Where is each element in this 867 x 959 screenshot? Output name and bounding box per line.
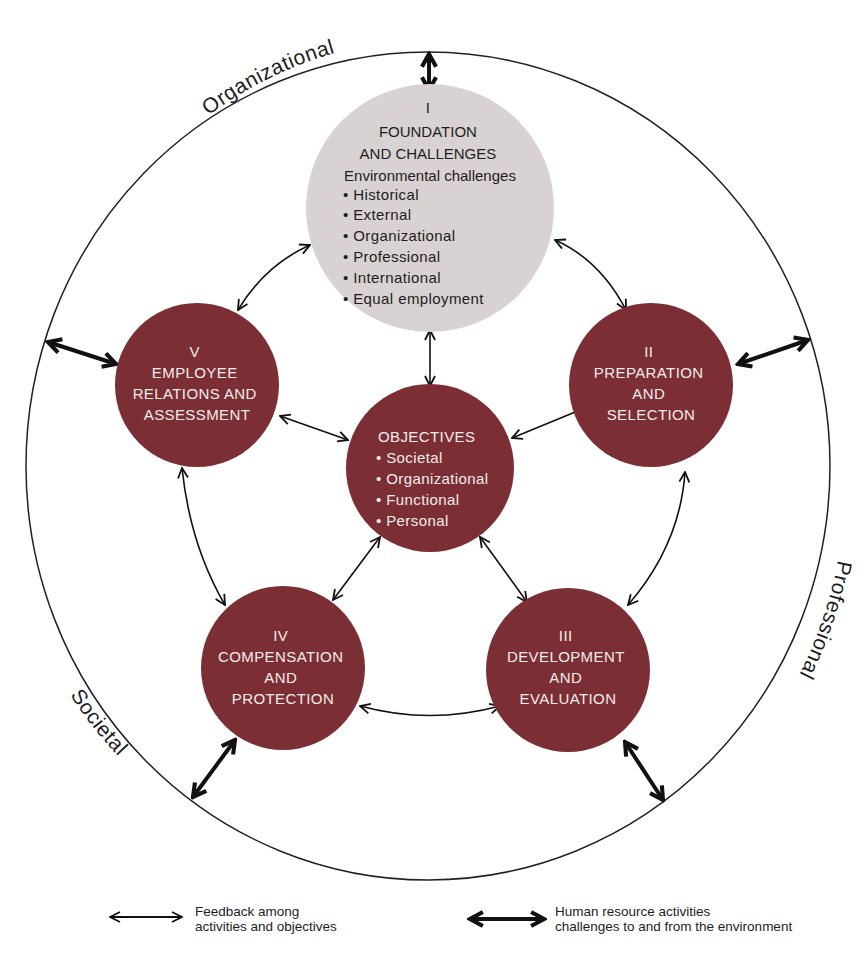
legend-feedback-line1: Feedback among bbox=[195, 904, 337, 919]
hr-model-diagram: Organizational Professional Societal bbox=[0, 0, 867, 959]
node-compensation: IV COMPENSATION AND PROTECTION bbox=[201, 586, 365, 750]
legend-feedback: Feedback among activities and objectives bbox=[195, 904, 337, 934]
legend-environment-line2: challenges to and from the environment bbox=[555, 919, 792, 934]
node-employee-relations: V EMPLOYEE RELATIONS AND ASSESSMENT bbox=[115, 303, 279, 467]
node-preparation: II PREPARATION AND SELECTION bbox=[569, 303, 733, 467]
label-societal: Societal bbox=[67, 684, 133, 759]
label-organizational: Organizational bbox=[197, 34, 336, 118]
node-objectives: OBJECTIVES • Societal • Organizational •… bbox=[346, 384, 514, 552]
label-professional: Professional bbox=[795, 559, 856, 683]
node-foundation: I FOUNDATION AND CHALLENGES Environmenta… bbox=[306, 84, 554, 332]
node-development: III DEVELOPMENT AND EVALUATION bbox=[486, 588, 650, 752]
legend-environment: Human resource activities challenges to … bbox=[555, 904, 792, 934]
legend-feedback-line2: activities and objectives bbox=[195, 919, 337, 934]
legend-environment-line1: Human resource activities bbox=[555, 904, 792, 919]
